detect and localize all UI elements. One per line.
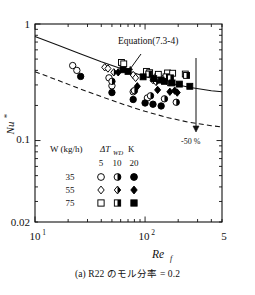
xtick-exp-1: 1 xyxy=(42,228,46,237)
legend-column-5: 5 xyxy=(99,158,104,168)
data-point-W35-dT20 xyxy=(130,96,136,102)
data-point-W35-dT20 xyxy=(77,73,83,79)
data-point-W35-dT20 xyxy=(150,101,156,107)
x-axis-title-main: Re xyxy=(151,248,164,260)
ytick-label-0p1: 0.1 xyxy=(16,133,30,145)
y-axis-title-sup: * xyxy=(2,113,12,118)
legend-markers xyxy=(98,174,138,207)
data-point-W75-dT5 xyxy=(121,61,127,67)
legend-marker-circle-filled-w35 xyxy=(131,174,138,181)
data-point-W75-dT20 xyxy=(162,78,168,84)
legend-marker-square-filled-w75 xyxy=(131,200,137,206)
figure-caption: (a) R22 のモル分率 = 0.2 xyxy=(0,266,255,280)
legend-row-w-55: 55 xyxy=(66,185,76,195)
data-point-W35-dT10 xyxy=(109,78,115,84)
xtick-exp-2: 2 xyxy=(151,228,155,237)
percent-annotation: -50 % xyxy=(181,137,201,146)
data-point-W75-dT20 xyxy=(187,83,193,89)
data-point-W75-dT20 xyxy=(176,81,182,87)
data-point-W35-dT10 xyxy=(173,99,179,105)
data-point-W35-dT10 xyxy=(147,93,153,99)
figure-container: 1 0.1 0.02 10 1 10 2 5 Nu * Re f Equatio… xyxy=(0,0,255,295)
y-axis-title-main: Nu xyxy=(4,121,16,135)
legend-row-w-35: 35 xyxy=(66,172,76,182)
ytick-label-1: 1 xyxy=(25,18,31,30)
ytick-label-0p02: 0.02 xyxy=(11,216,30,228)
legend-marker-square-half-w75 xyxy=(114,200,120,206)
xtick-base-2: 10 xyxy=(139,230,151,242)
data-point-W35-dT20 xyxy=(142,100,148,106)
legend-header-w: W (kg/h) xyxy=(50,144,83,154)
data-point-W35-dT20 xyxy=(109,89,115,95)
x-axis-title: Re f xyxy=(151,248,174,263)
data-point-W75-dT20 xyxy=(151,76,157,82)
legend-header-dt: ΔT xyxy=(99,144,111,154)
data-point-W75-dT20 xyxy=(169,80,175,86)
legend-marker-square-open-w75 xyxy=(98,200,104,206)
equation-annotation: Equation(7.3-4) xyxy=(118,36,178,47)
legend-column-20: 20 xyxy=(130,158,140,168)
legend-header-dt-sub: WD xyxy=(113,149,123,156)
data-point-W75-dT20 xyxy=(140,74,146,80)
xtick-label-10e2: 10 2 xyxy=(139,228,156,242)
legend-header-unit: K xyxy=(128,144,135,154)
xtick-label-10e1: 10 1 xyxy=(30,228,47,242)
xtick-label-5: 5 xyxy=(221,230,227,242)
legend-marker-circle-open-w35 xyxy=(98,174,105,181)
data-point-W35-dT10 xyxy=(161,96,167,102)
data-point-W75-dT10 xyxy=(184,72,190,78)
data-point-W75-dT20 xyxy=(125,68,131,74)
y-axis-title: Nu * xyxy=(2,113,16,135)
legend-marker-circle-half-w35 xyxy=(114,174,121,181)
legend-row-w-75: 75 xyxy=(66,198,76,208)
legend-column-10: 10 xyxy=(113,158,123,168)
data-point-W35-dT20 xyxy=(158,103,164,109)
xtick-base-1: 10 xyxy=(30,230,42,242)
data-point-W35-dT5 xyxy=(74,67,80,73)
x-axis-title-sub: f xyxy=(170,254,174,263)
chart-canvas: 1 0.1 0.02 10 1 10 2 5 Nu * Re f Equatio… xyxy=(0,0,255,295)
